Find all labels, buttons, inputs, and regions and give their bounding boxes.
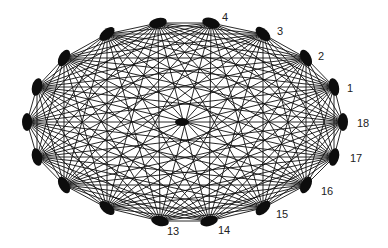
vertex-label-3: 3 [277, 25, 283, 37]
vertex-10 [30, 147, 44, 167]
vertex-18 [338, 113, 348, 131]
vertex-label-17: 17 [350, 152, 362, 164]
center-crossing-hub [175, 118, 189, 126]
edge-2-5 [158, 23, 306, 58]
vertex-label-13: 13 [167, 225, 179, 237]
vertex-label-1: 1 [347, 82, 353, 94]
complete-graph-diagram: 1234131415161718 [0, 0, 388, 248]
vertex-17 [327, 147, 341, 167]
vertex-label-4: 4 [222, 11, 228, 23]
vertex-9 [22, 113, 32, 131]
vertex-8 [30, 77, 44, 97]
vertex-label-18: 18 [357, 117, 369, 129]
edge-6-9 [27, 34, 107, 122]
center-hub [175, 118, 189, 126]
edge-10-16 [37, 157, 306, 185]
vertex-1 [327, 77, 341, 97]
vertex-label-2: 2 [318, 50, 324, 62]
vertex-label-15: 15 [276, 208, 288, 220]
vertex-label-16: 16 [321, 185, 333, 197]
vertex-label-14: 14 [218, 224, 230, 236]
